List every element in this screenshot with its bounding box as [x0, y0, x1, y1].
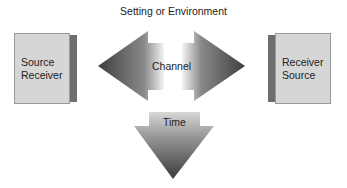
channel-label: Channel	[152, 60, 191, 72]
arrows-graphic	[0, 0, 347, 188]
channel-right-arrow-icon	[182, 31, 245, 101]
time-label: Time	[163, 116, 186, 128]
